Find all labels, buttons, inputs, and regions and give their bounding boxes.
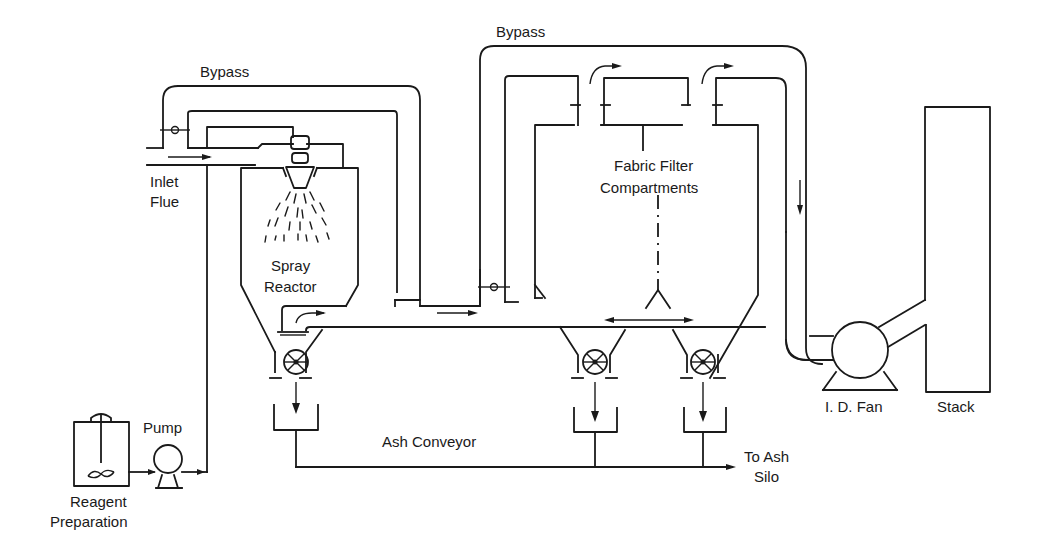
reagent-label-1: Reagent [70, 493, 128, 510]
bypass-right-label: Bypass [496, 23, 545, 40]
id-fan-icon [823, 300, 925, 390]
reactor-outlet-duct [278, 270, 765, 335]
fabric-filter-label-1: Fabric Filter [614, 157, 693, 174]
fabric-filter-compartments [535, 63, 786, 378]
process-flow-diagram: Bypass Bypass Inlet Flue Spray Reactor F… [0, 0, 1041, 546]
filter-ash-drops [574, 382, 726, 467]
atomizer-nozzle-icon [286, 136, 314, 188]
stack-icon [925, 107, 990, 392]
id-fan-label: I. D. Fan [825, 398, 883, 415]
bypass-left-label: Bypass [200, 63, 249, 80]
rotary-valve-icon [284, 350, 308, 374]
pump-icon [129, 165, 207, 488]
right-bypass-duct [478, 46, 822, 364]
stack-label: Stack [937, 398, 975, 415]
fabric-filter-label-2: Compartments [600, 179, 698, 196]
rotary-valve-icon [583, 350, 607, 374]
inlet-flue-label-2: Flue [150, 193, 179, 210]
pump-label: Pump [143, 419, 182, 436]
to-ash-silo-label-1: To Ash [744, 448, 789, 465]
spray-reactor-label-2: Reactor [264, 278, 317, 295]
spray-reactor-label-1: Spray [271, 257, 311, 274]
inlet-flue-label-1: Inlet [150, 173, 179, 190]
downcomer-duct [786, 180, 833, 360]
rotary-valve-icon [691, 350, 715, 374]
to-ash-silo-label-2: Silo [754, 468, 779, 485]
ash-conveyor-line [296, 464, 736, 470]
reagent-tank-icon [74, 414, 129, 486]
reagent-label-2: Preparation [50, 513, 128, 530]
reactor-ash-drop [274, 382, 318, 467]
inlet-flue-duct [147, 144, 293, 165]
ash-conveyor-label: Ash Conveyor [382, 433, 476, 450]
spray-pattern-icon [265, 192, 329, 242]
